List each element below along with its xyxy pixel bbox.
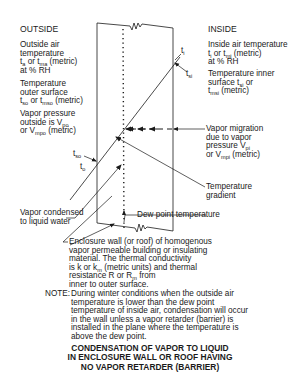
- tso-label: tso: [73, 150, 81, 159]
- inner-surface-line3: tmsi (metric): [208, 87, 274, 96]
- temperature-gradient-line: [70, 57, 180, 200]
- vapor-migration-line4: or Vmpi (metric): [206, 151, 263, 160]
- title-line: NO VAPOR RETARDER (BARRIER): [0, 363, 300, 372]
- vapor-condensed-label: Vapor condensed to liquid water: [20, 209, 84, 226]
- inside-air-temp-label: Inside air temperature ti or tmi (metric…: [208, 41, 288, 67]
- outer-surface-temp-label: Temperature outer surface tso or tmso (m…: [20, 80, 83, 106]
- note-line: above the dew point.: [71, 333, 248, 342]
- ti-label: ti: [181, 47, 185, 56]
- to-label: to: [80, 163, 85, 172]
- outside-vapor-pressure-label: Vapor pressure outside is Vpo or Vmpo (m…: [20, 110, 76, 136]
- enclosure-wall-label: Enclosure wall (or roof) of homogenous v…: [69, 238, 212, 290]
- outside-air-temp-label: Outside air temperature ta or tma (metri…: [20, 41, 77, 75]
- inner-surface-temp-label: Temperature inner surface tsi or tmsi (m…: [208, 70, 274, 96]
- inside-heading: INSIDE: [208, 25, 237, 34]
- vapor-condensed-line2: to liquid water: [20, 218, 84, 227]
- temperature-gradient-label: Temperature gradient: [206, 183, 252, 200]
- note-label: NOTE:: [45, 290, 70, 299]
- outside-heading: OUTSIDE: [20, 25, 58, 34]
- outside-air-temp-line4: at % RH: [20, 67, 77, 76]
- temp-gradient-line2: gradient: [206, 192, 252, 201]
- vapor-migration-label: Vapor migration due to vapor pressure Vp…: [206, 125, 263, 159]
- note-body: During winter conditions when the outsid…: [71, 290, 248, 342]
- wall-outline: [97, 23, 173, 232]
- tsi-label: tsi: [186, 70, 192, 79]
- outer-surface-line3: tso or tmso (metric): [20, 97, 83, 106]
- figure-title: CONDENSATION OF VAPOR TO LIQUID IN ENCLO…: [0, 344, 300, 372]
- dew-point-dotted-line: [123, 29, 124, 228]
- vapor-pressure-line3: or Vmpo (metric): [20, 127, 76, 136]
- inside-air-line3: at % RH: [208, 58, 288, 67]
- dew-point-label: Dew point temperature: [137, 211, 220, 220]
